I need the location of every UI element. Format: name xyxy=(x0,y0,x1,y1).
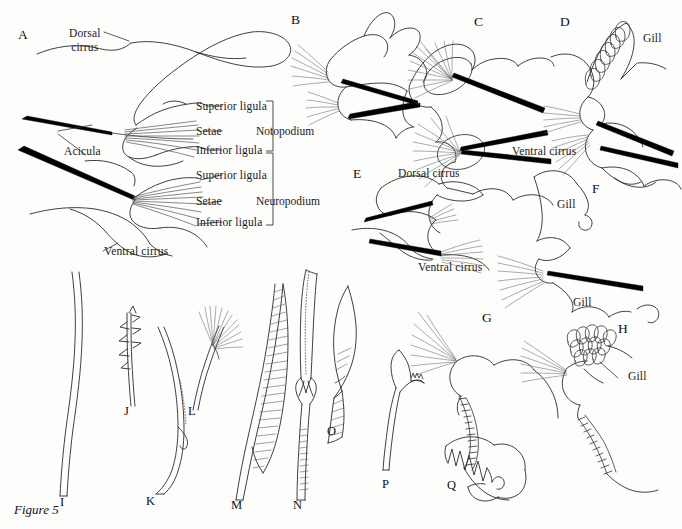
setae-letter-p: P xyxy=(382,477,389,492)
figure-plate: .ol { fill:none; stroke:#2a2a2a; stroke-… xyxy=(0,0,682,529)
label-ventral-cirrus-a: Ventral cirrus xyxy=(104,245,168,259)
label-gill-h: Gill xyxy=(628,370,647,384)
panel-letter-g: G xyxy=(482,310,492,326)
label-superior-ligula-neuro: Superior ligula xyxy=(196,169,267,183)
setae-letter-i: I xyxy=(60,495,64,510)
label-dorsal-cirrus-e: Dorsal cirrus xyxy=(398,167,460,181)
label-inferior-ligula-neuro: Inferior ligula xyxy=(196,216,262,230)
label-ventral-cirrus-d: Ventral cirrus xyxy=(512,145,576,159)
label-ventral-cirrus-e: Ventral cirrus xyxy=(418,261,482,275)
figure-drawing: .ol { fill:none; stroke:#2a2a2a; stroke-… xyxy=(0,0,682,529)
setae-letter-q: Q xyxy=(447,478,456,493)
label-acicula: Acicula xyxy=(64,145,101,159)
setae-letter-o: O xyxy=(327,424,336,439)
setae-letter-m: M xyxy=(231,498,242,513)
panel-letter-a: A xyxy=(18,27,28,43)
label-setae-noto: Setae xyxy=(196,125,222,139)
panel-letter-f: F xyxy=(592,181,600,197)
label-superior-ligula-noto: Superior ligula xyxy=(196,100,267,114)
label-notopodium: Notopodium xyxy=(256,125,314,137)
panel-letter-b: B xyxy=(291,12,300,28)
label-setae-neuro: Setae xyxy=(196,195,222,209)
label-gill-f-lower: Gill xyxy=(573,296,592,310)
label-gill-f-upper: Gill xyxy=(557,198,576,212)
label-neuropodium: Neuropodium xyxy=(256,195,320,207)
label-dorsal-cirrus-a: Dorsal cirrus xyxy=(69,27,101,55)
label-dorsal-cirrus-a-line1: Dorsal xyxy=(69,27,101,41)
label-dorsal-cirrus-a-line2: cirrus xyxy=(69,41,101,55)
label-inferior-ligula-noto: Inferior ligula xyxy=(196,144,262,158)
figure-caption: Figure 5 xyxy=(14,502,59,518)
setae-letter-j: J xyxy=(124,404,129,419)
setae-letter-l: L xyxy=(188,404,196,419)
panel-letter-d: D xyxy=(560,14,570,30)
label-gill-d: Gill xyxy=(643,32,662,46)
panel-letter-e: E xyxy=(353,166,361,182)
setae-letter-k: K xyxy=(146,494,155,509)
panel-letter-h: H xyxy=(618,321,628,337)
setae-letter-n: N xyxy=(293,498,302,513)
panel-letter-c: C xyxy=(474,14,483,30)
